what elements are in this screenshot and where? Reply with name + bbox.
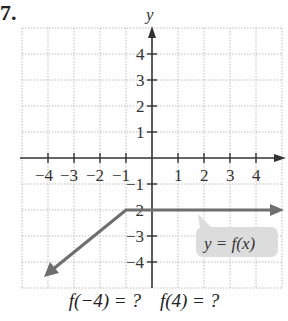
y-tick-label: 4 <box>136 45 145 64</box>
function-graph: y −4 −3 −2 −1 1 2 3 4 4 3 2 1 −1 −2 −3 −… <box>0 0 288 290</box>
x-tick-label: 3 <box>226 166 235 185</box>
questions-caption: f(−4) = ? f(4) = ? <box>0 290 288 312</box>
y-tick-label: 3 <box>136 71 145 90</box>
x-tick-label: 2 <box>200 166 209 185</box>
x-tick-label: −3 <box>60 166 78 185</box>
x-tick-label: 4 <box>252 166 261 185</box>
y-tick-label: −1 <box>126 175 144 194</box>
question-f-4: f(4) = ? <box>160 290 219 311</box>
x-tick-label: −2 <box>86 166 104 185</box>
x-tick-label: −4 <box>35 166 54 185</box>
y-tick-label: 2 <box>136 97 145 116</box>
y-tick-label: 1 <box>136 123 145 142</box>
y-axis-label: y <box>144 5 154 24</box>
x-axis-arrow-icon <box>274 154 286 162</box>
question-f-neg4: f(−4) = ? <box>69 290 141 311</box>
function-label: y = f(x) <box>202 234 255 253</box>
y-tick-label: −3 <box>126 227 144 246</box>
function-label-callout: y = f(x) <box>196 214 278 257</box>
x-tick-label: 1 <box>174 166 183 185</box>
y-tick-label: −4 <box>126 253 145 272</box>
